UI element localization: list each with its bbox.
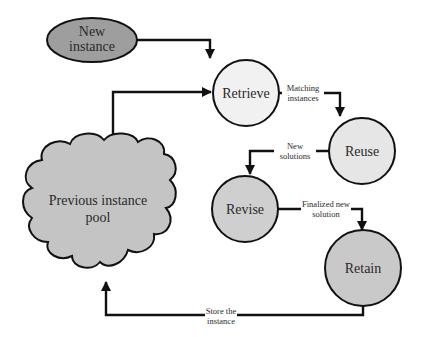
node-retain: Retain <box>325 230 401 306</box>
svg-text:Previous instance: Previous instance <box>49 193 147 208</box>
svg-text:instances: instances <box>287 93 318 103</box>
svg-text:Reuse: Reuse <box>345 144 379 159</box>
svg-text:instance: instance <box>207 316 235 326</box>
node-new-instance: New instance <box>47 18 137 62</box>
edge-label-store-the-instance: Store the instance <box>205 306 237 327</box>
svg-text:Revise: Revise <box>226 202 264 217</box>
cbr-cycle-diagram: Matching instances New solutions Finaliz… <box>0 0 421 337</box>
node-retrieve: Retrieve <box>213 60 279 126</box>
node-reuse: Reuse <box>329 118 395 184</box>
svg-text:New: New <box>287 141 304 151</box>
svg-text:pool: pool <box>86 210 111 225</box>
edge-label-finalized-new-solution: Finalized new solution <box>301 199 351 220</box>
node-revise: Revise <box>212 176 278 242</box>
svg-text:Retain: Retain <box>345 261 382 276</box>
svg-text:New: New <box>79 24 106 39</box>
svg-text:Retrieve: Retrieve <box>222 86 269 101</box>
edge-label-matching-instances: Matching instances <box>282 83 324 104</box>
node-previous-instance-pool: Previous instance pool <box>23 133 176 267</box>
edge-pool-to-retrieve <box>113 92 211 140</box>
svg-text:instance: instance <box>69 39 115 54</box>
svg-text:Matching: Matching <box>287 83 320 93</box>
svg-text:solution: solution <box>312 209 340 219</box>
edge-label-new-solutions: New solutions <box>274 141 316 162</box>
edge-new-instance-to-retrieve <box>137 40 210 58</box>
svg-text:solutions: solutions <box>280 151 311 161</box>
svg-text:Finalized new: Finalized new <box>302 199 351 209</box>
svg-text:Store the: Store the <box>206 306 237 316</box>
